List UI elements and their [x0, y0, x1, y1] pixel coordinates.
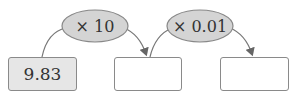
answer-box-1[interactable] [114, 57, 182, 91]
operation-label-1: × 10 [62, 10, 128, 42]
start-value-box: 9.83 [8, 57, 77, 91]
answer-box-2[interactable] [220, 57, 289, 91]
operation-label-2: × 0.01 [167, 10, 233, 42]
arrow-2-head [230, 28, 252, 54]
